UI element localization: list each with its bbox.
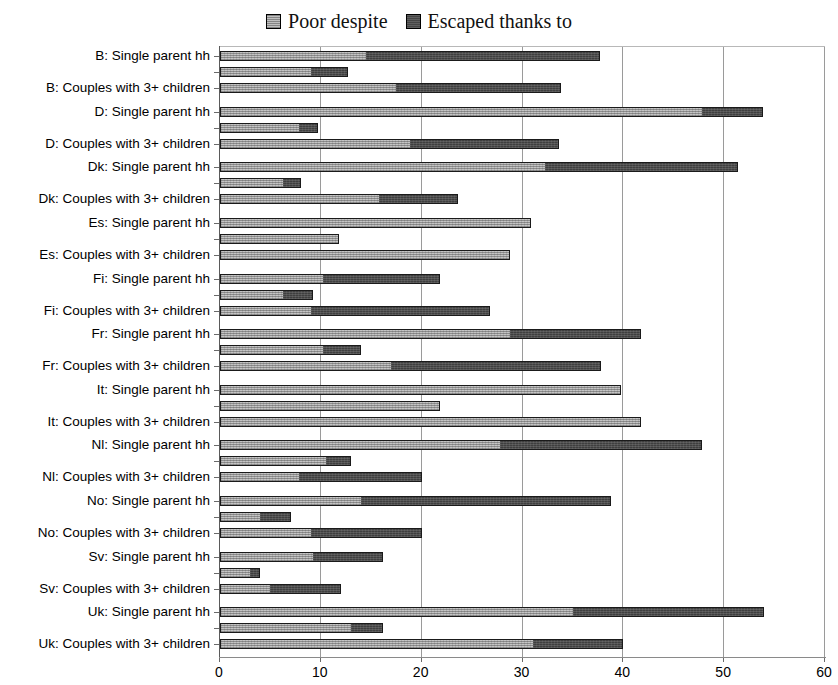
y-axis-tick xyxy=(214,501,219,502)
x-axis-tick-label: 30 xyxy=(514,664,530,680)
y-axis-tick xyxy=(214,517,219,518)
category-label: Nl: Single parent hh xyxy=(91,438,210,452)
bar-row xyxy=(220,123,318,133)
bar-segment-poor-despite xyxy=(220,194,379,204)
bar-segment-escaped-thanks-to xyxy=(702,107,764,117)
y-axis-tick xyxy=(214,390,219,391)
bar-segment-escaped-thanks-to xyxy=(391,361,601,371)
light-gray-square-icon xyxy=(266,14,281,29)
bar-segment-poor-despite xyxy=(220,162,545,172)
y-axis-tick xyxy=(214,279,219,280)
bar-segment-escaped-thanks-to xyxy=(510,329,641,339)
x-axis-tick xyxy=(824,658,825,662)
bar-row xyxy=(220,568,260,578)
category-label: Uk: Couples with 3+ children xyxy=(39,637,210,651)
y-axis-tick xyxy=(214,311,219,312)
bar-segment-poor-despite xyxy=(220,67,311,77)
bar-segment-escaped-thanks-to xyxy=(311,67,348,77)
bar-segment-escaped-thanks-to xyxy=(326,456,351,466)
bar-segment-poor-despite xyxy=(220,552,313,562)
y-axis-tick xyxy=(214,255,219,256)
y-axis-tick xyxy=(214,533,219,534)
bar-segment-poor-despite xyxy=(220,639,533,649)
bar-segment-escaped-thanks-to xyxy=(250,568,260,578)
x-axis: 0102030405060 xyxy=(0,658,838,685)
y-axis-tick xyxy=(214,350,219,351)
bar-row xyxy=(220,528,422,538)
category-label: D: Single parent hh xyxy=(94,105,210,119)
bar-segment-escaped-thanks-to xyxy=(573,607,765,617)
bar-segment-escaped-thanks-to xyxy=(361,496,611,506)
bar-segment-poor-despite xyxy=(220,290,283,300)
bar-segment-poor-despite xyxy=(220,584,270,594)
legend-label: Escaped thanks to xyxy=(428,11,572,31)
bar-segment-poor-despite xyxy=(220,329,510,339)
category-label: Es: Couples with 3+ children xyxy=(39,248,210,262)
y-axis-tick xyxy=(214,445,219,446)
bar-segment-escaped-thanks-to xyxy=(500,440,702,450)
y-axis-tick xyxy=(214,199,219,200)
bar-segment-escaped-thanks-to xyxy=(260,512,290,522)
y-axis-tick xyxy=(214,557,219,558)
bar-row xyxy=(220,345,361,355)
bar-row xyxy=(220,274,440,284)
bar-segment-escaped-thanks-to xyxy=(366,51,600,61)
bar-segment-escaped-thanks-to xyxy=(323,345,361,355)
x-axis-tick-label: 10 xyxy=(312,664,328,680)
bar-row xyxy=(220,552,383,562)
x-axis-tick xyxy=(723,658,724,662)
y-axis-tick xyxy=(214,461,219,462)
category-label: Fr: Couples with 3+ children xyxy=(42,359,210,373)
bar-segment-poor-despite xyxy=(220,274,323,284)
bar-row xyxy=(220,623,383,633)
x-axis-tick-label: 60 xyxy=(816,664,832,680)
bar-segment-poor-despite xyxy=(220,51,366,61)
y-axis-tick xyxy=(214,366,219,367)
bar-segment-poor-despite xyxy=(220,401,440,411)
category-label: B: Couples with 3+ children xyxy=(46,81,210,95)
bar-row xyxy=(220,417,641,427)
bar-segment-escaped-thanks-to xyxy=(311,528,422,538)
y-axis-tick xyxy=(214,167,219,168)
bar-segment-escaped-thanks-to xyxy=(311,306,490,316)
bar-segment-poor-despite xyxy=(220,456,326,466)
y-axis-tick xyxy=(214,422,219,423)
bar-segment-poor-despite xyxy=(220,83,396,93)
bar-series-layer xyxy=(220,46,825,658)
x-axis-tick xyxy=(219,658,220,662)
x-axis-tick-label: 40 xyxy=(615,664,631,680)
bar-row xyxy=(220,607,764,617)
bar-segment-poor-despite xyxy=(220,218,531,228)
bar-row xyxy=(220,234,339,244)
bar-row xyxy=(220,512,291,522)
bar-segment-poor-despite xyxy=(220,472,299,482)
bar-segment-poor-despite xyxy=(220,178,283,188)
bar-row xyxy=(220,107,763,117)
bar-segment-poor-despite xyxy=(220,123,299,133)
y-axis-tick xyxy=(214,573,219,574)
bar-row xyxy=(220,306,490,316)
bar-segment-poor-despite xyxy=(220,234,339,244)
bar-segment-escaped-thanks-to xyxy=(379,194,458,204)
category-label: Dk: Single parent hh xyxy=(88,160,210,174)
y-axis-tick xyxy=(214,88,219,89)
y-axis-labels: B: Single parent hhB: Couples with 3+ ch… xyxy=(0,46,216,658)
category-label: Fr: Single parent hh xyxy=(91,327,210,341)
x-axis-tick-label: 0 xyxy=(215,664,223,680)
y-axis-tick xyxy=(214,72,219,73)
category-label: Fi: Single parent hh xyxy=(93,272,210,286)
bar-segment-poor-despite xyxy=(220,306,311,316)
bar-row xyxy=(220,472,422,482)
x-axis-tick xyxy=(522,658,523,662)
y-axis-tick xyxy=(214,56,219,57)
y-axis-tick xyxy=(214,183,219,184)
y-axis-tick xyxy=(214,589,219,590)
bar-row xyxy=(220,440,702,450)
bar-segment-poor-despite xyxy=(220,496,361,506)
bar-row xyxy=(220,329,641,339)
bar-segment-poor-despite xyxy=(220,440,500,450)
bar-segment-poor-despite xyxy=(220,250,510,260)
y-axis-tick xyxy=(214,477,219,478)
x-axis-tick xyxy=(320,658,321,662)
bar-row xyxy=(220,584,341,594)
